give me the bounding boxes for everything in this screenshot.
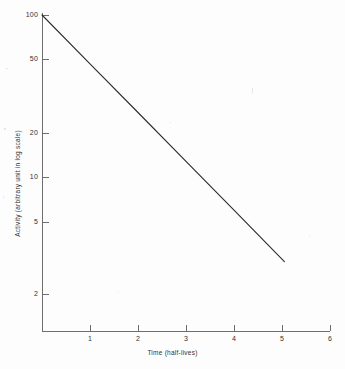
decay-line-series: [42, 15, 284, 262]
x-axis-title: Time (half-lives): [0, 349, 345, 356]
plot-area: [0, 0, 345, 369]
y-axis-title: Activity (arbitrary unit in log scale): [14, 94, 21, 274]
decay-curve-chart: 100 50 20 10 5 2 1 2 3 4 5 6 Time (half-…: [0, 0, 345, 369]
